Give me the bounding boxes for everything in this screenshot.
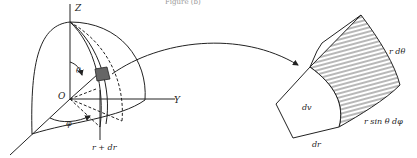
z-axis-label: Z	[74, 3, 82, 13]
origin-label: O	[58, 91, 66, 101]
dr-label: dr	[312, 140, 322, 149]
zoom-arrow	[112, 43, 298, 74]
spherical-volume-element-diagram: Figure (b) Z Y O θ φ r + dr	[0, 0, 417, 158]
dv-label: dv	[302, 103, 312, 112]
theta-label: θ	[76, 66, 81, 75]
sphere-octant	[10, 4, 175, 155]
r-dr-label: r + dr	[92, 143, 118, 152]
y-axis-label: Y	[174, 95, 181, 105]
r-sin-theta-dphi-label: r sin θ dφ	[364, 117, 403, 126]
figure-caption: Figure (b)	[165, 0, 201, 6]
phi-label: φ	[66, 119, 72, 128]
r-dtheta-label: r dθ	[389, 47, 405, 56]
volume-element-small	[95, 67, 110, 81]
